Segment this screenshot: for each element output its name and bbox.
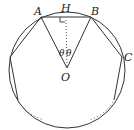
label-H: H (60, 2, 71, 15)
label-C: C (124, 51, 133, 64)
segment-OH-dotted (66, 20, 67, 66)
label-theta-right: θ (66, 48, 72, 58)
segment-OB (67, 17, 91, 68)
segment-OA (41, 17, 67, 68)
label-O: O (61, 71, 70, 84)
label-A: A (33, 5, 42, 18)
diagram-canvas: A H B C O θ θ (0, 0, 134, 130)
omitted-sides-right-dotted (90, 102, 113, 120)
label-theta-left: θ (59, 48, 65, 58)
omitted-sides-left-dotted (19, 102, 44, 120)
label-B: B (90, 5, 99, 18)
polygon-circle-diagram: A H B C O θ θ (0, 0, 134, 130)
right-angle-mark (60, 17, 65, 22)
